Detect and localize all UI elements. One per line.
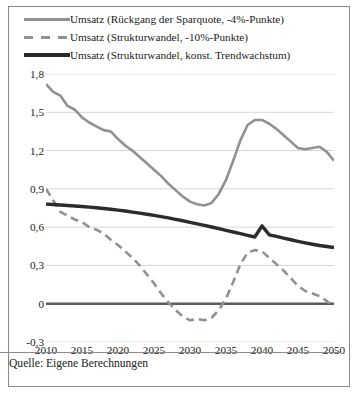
y-tick-label: 1,2 bbox=[0, 145, 44, 157]
legend-swatch-solid-gray-icon bbox=[24, 12, 70, 26]
x-tick-label: 2035 bbox=[215, 344, 237, 356]
legend-label-sparquote: Umsatz (Rückgang der Sparquote, -4%-Punk… bbox=[70, 12, 284, 26]
legend-label-strukturwandel: Umsatz (Strukturwandel, -10%-Punkte) bbox=[70, 30, 248, 44]
x-tick-label: 2030 bbox=[179, 344, 201, 356]
plot-area: 1,81,51,20,90,60,30-0,3 2010201520202025… bbox=[0, 74, 340, 342]
series-line-umsatz-r-ckgang-der-sparquote-4-punkte bbox=[46, 84, 334, 205]
x-tick-label: 2025 bbox=[143, 344, 165, 356]
plot-canvas bbox=[46, 74, 334, 342]
legend-item-sparquote: Umsatz (Rückgang der Sparquote, -4%-Punk… bbox=[24, 10, 340, 28]
legend-swatch-solid-black-icon bbox=[24, 48, 70, 62]
x-tick-label: 2050 bbox=[323, 344, 345, 356]
y-tick-label: 0,9 bbox=[0, 183, 44, 195]
y-tick-label: 0,6 bbox=[0, 221, 44, 233]
y-tick-label: 1,8 bbox=[0, 68, 44, 80]
legend-label-trendwachstum: Umsatz (Strukturwandel, konst. Trendwach… bbox=[70, 48, 290, 62]
chart-legend: Umsatz (Rückgang der Sparquote, -4%-Punk… bbox=[0, 10, 340, 64]
y-axis-labels: 1,81,51,20,90,60,30-0,3 bbox=[0, 74, 44, 342]
x-tick-label: 2045 bbox=[287, 344, 309, 356]
x-tick-label: 2020 bbox=[107, 344, 129, 356]
x-tick-label: 2010 bbox=[35, 344, 57, 356]
x-tick-label: 2015 bbox=[71, 344, 93, 356]
y-tick-label: 0,3 bbox=[0, 259, 44, 271]
legend-item-strukturwandel: Umsatz (Strukturwandel, -10%-Punkte) bbox=[24, 28, 340, 46]
chart-svg bbox=[46, 74, 334, 342]
footer-divider bbox=[0, 352, 340, 353]
x-tick-label: 2040 bbox=[251, 344, 273, 356]
y-tick-label: 0 bbox=[0, 298, 44, 310]
y-tick-label: 1,5 bbox=[0, 106, 44, 118]
legend-item-trendwachstum: Umsatz (Strukturwandel, konst. Trendwach… bbox=[24, 46, 340, 64]
chart-figure: Umsatz (Rückgang der Sparquote, -4%-Punk… bbox=[0, 0, 358, 394]
source-note: Quelle: Eigene Berechnungen bbox=[9, 357, 148, 370]
legend-swatch-dashed-gray-icon bbox=[24, 30, 70, 44]
